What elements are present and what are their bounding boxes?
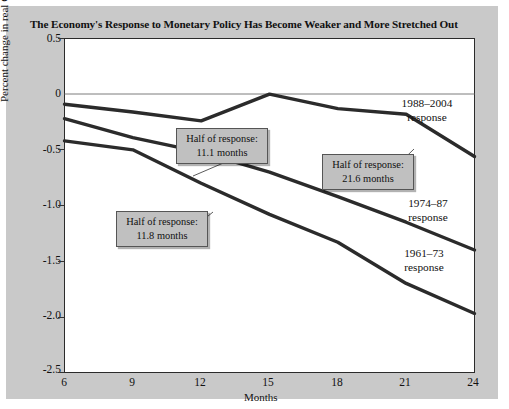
annotation-box-1974-87: Half of response: 11.1 months bbox=[176, 128, 268, 164]
series-label-line2: response bbox=[388, 110, 466, 124]
annotation-line2: 21.6 months bbox=[328, 172, 408, 186]
series-label-line1: 1988–2004 bbox=[388, 96, 466, 110]
annotation-line2: 11.1 months bbox=[182, 146, 262, 160]
series-label-line1: 1961–73 bbox=[388, 246, 460, 260]
series-label-1988-2004: 1988–2004 response bbox=[388, 96, 466, 124]
annotation-line1: Half of response: bbox=[182, 132, 262, 146]
annotation-box-1961-73: Half of response: 11.8 months bbox=[116, 211, 208, 247]
series-label-1961-73: 1961–73 response bbox=[388, 246, 460, 274]
series-label-1974-87: 1974–87 response bbox=[392, 196, 464, 224]
annotation-line1: Half of response: bbox=[328, 158, 408, 172]
series-label-line2: response bbox=[392, 210, 464, 224]
series-label-line1: 1974–87 bbox=[392, 196, 464, 210]
chart-figure: The Economy's Response to Monetary Polic… bbox=[6, 6, 498, 399]
annotation-line1: Half of response: bbox=[122, 215, 202, 229]
annotation-box-1988-2004: Half of response: 21.6 months bbox=[322, 154, 414, 190]
annotation-line2: 11.8 months bbox=[122, 229, 202, 243]
series-label-line2: response bbox=[388, 260, 460, 274]
